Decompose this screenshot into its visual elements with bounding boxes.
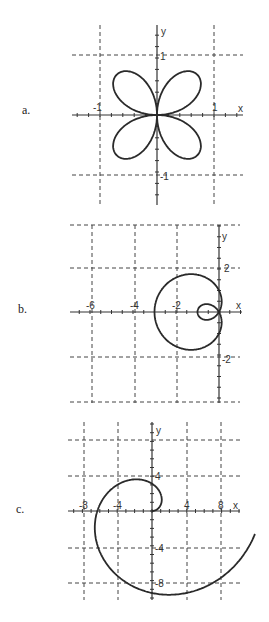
graph-a-x-label: x (238, 103, 243, 114)
graph-a-tick-x-pos: 1 (212, 102, 218, 113)
graph-b-x-label: x (236, 300, 241, 311)
graph-b: y x -6 -4 -2 2 -2 (70, 225, 242, 403)
graph-c-tick-x2: -4 (113, 500, 122, 511)
graph-c: y x -8 -4 4 8 4 -4 -8 (68, 422, 255, 600)
graphs-canvas: y x -1 1 1 -1 y x -6 -4 -2 2 -2 (0, 0, 269, 622)
graph-c-x-label: x (233, 500, 238, 511)
graph-b-tick-x3: -2 (172, 300, 181, 311)
graph-b-tick-x1: -6 (86, 300, 95, 311)
graph-a-tick-y-neg: -1 (160, 171, 169, 182)
graph-b-y-label: y (222, 231, 227, 242)
graph-a: y x -1 1 1 -1 (72, 25, 243, 205)
graph-c-y-label: y (156, 425, 161, 436)
graph-b-tick-y-neg: -2 (222, 354, 231, 365)
graph-c-tick-y-pos: 4 (155, 471, 161, 482)
spiral-curve (95, 479, 255, 595)
graph-a-tick-x-neg: -1 (93, 102, 102, 113)
graph-c-tick-y-neg2: -8 (155, 578, 164, 589)
graph-c-tick-x1: -8 (79, 500, 88, 511)
graph-b-tick-x2: -4 (130, 300, 139, 311)
graph-a-tick-y-pos: 1 (160, 51, 166, 62)
graph-c-tick-x3: 4 (184, 500, 190, 511)
graph-c-tick-x4: 8 (218, 500, 224, 511)
graph-a-y-label: y (161, 26, 166, 37)
graph-c-tick-y-neg1: -4 (155, 543, 164, 554)
graph-b-tick-y-pos: 2 (224, 263, 230, 274)
